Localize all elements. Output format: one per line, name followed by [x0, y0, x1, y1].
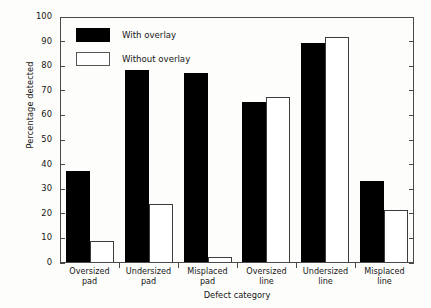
y-tick-mark-right	[409, 213, 414, 214]
x-label-line: pad	[178, 277, 237, 287]
x-axis-category-label: Undersizedpad	[119, 267, 178, 286]
bar	[125, 70, 149, 262]
x-axis-category-label: Oversizedpad	[60, 267, 119, 286]
bar	[360, 181, 384, 262]
y-tick-mark-right	[409, 238, 414, 239]
legend-swatch	[76, 28, 110, 42]
y-tick-mark-right	[409, 189, 414, 190]
x-label-line: pad	[119, 277, 178, 287]
x-axis-category-label: Undersizedline	[296, 267, 355, 286]
y-tick-label: 80	[12, 60, 52, 70]
bar	[184, 73, 208, 262]
y-tick-label: 30	[12, 183, 52, 193]
x-axis-category-labels: OversizedpadUndersizedpadMisplacedpadOve…	[60, 267, 414, 286]
bar	[149, 204, 173, 262]
y-tick-label: 20	[12, 208, 52, 218]
y-tick-mark-right	[409, 90, 414, 91]
bar	[384, 210, 408, 262]
y-tick-mark	[60, 90, 65, 91]
y-tick-mark	[60, 213, 65, 214]
y-tick-mark-right	[409, 140, 414, 141]
y-tick-mark	[60, 41, 65, 42]
x-label-line: line	[355, 277, 414, 287]
y-tick-mark	[60, 189, 65, 190]
legend-item: Without overlay	[76, 49, 190, 68]
y-tick-label: 0	[12, 257, 52, 267]
bar	[208, 257, 232, 262]
x-axis-category-label: Misplacedline	[355, 267, 414, 286]
legend-label: With overlay	[122, 30, 176, 40]
legend-swatch	[76, 52, 110, 66]
y-tick-mark	[60, 164, 65, 165]
bar-group	[296, 18, 355, 262]
y-tick-mark-right	[409, 164, 414, 165]
bar	[325, 37, 349, 262]
legend-item: With overlay	[76, 25, 190, 44]
y-tick-mark	[60, 238, 65, 239]
bar	[266, 97, 290, 262]
x-axis-title: Defect category	[60, 290, 414, 300]
x-label-line: pad	[60, 277, 119, 287]
bar	[242, 102, 266, 262]
y-tick-mark-right	[409, 17, 414, 18]
y-tick-mark	[60, 17, 65, 18]
y-tick-mark-right	[409, 41, 414, 42]
y-tick-label: 90	[12, 36, 52, 46]
bar	[66, 171, 90, 262]
x-label-line: line	[237, 277, 296, 287]
x-label-line: line	[296, 277, 355, 287]
chart-legend: With overlayWithout overlay	[76, 25, 190, 73]
y-tick-mark	[60, 66, 65, 67]
y-tick-label: 40	[12, 159, 52, 169]
y-tick-mark-right	[409, 115, 414, 116]
bar	[301, 43, 325, 262]
y-tick-label: 50	[12, 134, 52, 144]
y-tick-label: 100	[12, 11, 52, 21]
y-tick-label: 60	[12, 109, 52, 119]
y-tick-label: 70	[12, 85, 52, 95]
x-axis-category-label: Misplacedpad	[178, 267, 237, 286]
bar	[90, 241, 114, 262]
bar-chart-figure: Percentage detected 01020304050607080901…	[0, 0, 431, 308]
y-tick-label: 10	[12, 232, 52, 242]
y-tick-mark-right	[409, 66, 414, 67]
bar-group	[354, 18, 413, 262]
bar-group	[237, 18, 296, 262]
legend-label: Without overlay	[122, 54, 190, 64]
x-axis-category-label: Oversizedline	[237, 267, 296, 286]
y-tick-mark	[60, 115, 65, 116]
y-tick-mark	[60, 140, 65, 141]
